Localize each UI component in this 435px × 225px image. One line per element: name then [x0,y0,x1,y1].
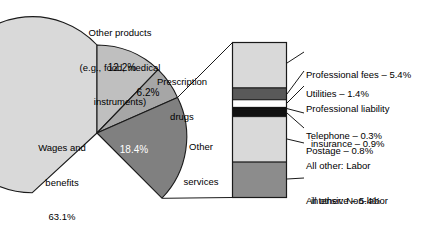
pie-value-other-services: 18.4% [112,144,156,155]
pie-label-other-services: Other services [172,118,230,210]
bar-segment-professional-fees[interactable] [233,43,287,88]
bar-segment-postage[interactable] [233,110,287,117]
pie-label-other-services-line1: Other [172,141,230,153]
pie-label-wages-value: 63.1% [14,211,110,223]
leader-line-postage [287,113,304,128]
pie-value-other-products: 12.2% [100,62,144,73]
bar-segment-all-other-non-labor-intensive[interactable] [233,162,287,197]
leader-line-all-other-labor-intensive [287,139,304,143]
pie-label-other-services-line2: services [172,176,230,188]
pie-label-prescription-drugs-line1: Prescription [142,76,222,88]
pie-label-wages-line1: Wages and [14,142,110,154]
pie-label-wages-line2: benefits [14,177,110,189]
leader-line-telephone [287,109,304,113]
bar-segment-professional-liability-insurance[interactable] [233,100,287,108]
leader-line-professional-fees [287,52,304,63]
pie-value-prescription-drugs: 6.2% [128,87,168,98]
leader-line-utilities [287,71,304,94]
bar-segment-telephone[interactable] [233,107,287,110]
bar-segment-all-other-labor-intensive[interactable] [233,117,287,162]
leader-line-all-other-non-labor-intensive [287,178,304,179]
callout-all-other-labor-intensive-line1: All other: Labor [306,160,434,172]
leader-line-professional-liability-insurance [287,86,304,103]
bar-segment-utilities[interactable] [233,88,287,100]
pie-label-wages-and-benefits: Wages and benefits 63.1% [14,119,110,225]
callout-all-other-non-labor-intensive: All other: Non-labor intensive – 4.2% [306,172,434,225]
pie-chart-with-stacked-bar-breakdown: Other products (e.g., food, medical inst… [0,0,435,225]
callout-all-other-non-labor-intensive-line1: All other: Non-labor [306,195,434,207]
pie-label-other-products-line1: Other products [46,27,194,39]
